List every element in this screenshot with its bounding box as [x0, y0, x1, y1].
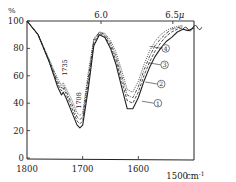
- y-tick-label: 80: [13, 43, 24, 53]
- series-line-①: [27, 21, 194, 128]
- series-label-①: 1: [156, 100, 160, 107]
- x-tick-label: 1800: [16, 164, 38, 174]
- y-tick-label: 20: [13, 126, 24, 136]
- peak-label-1735: 1735: [61, 59, 69, 76]
- plot-frame: [27, 21, 194, 160]
- y-tick-label: 100: [8, 16, 24, 26]
- y-tick-label: 40: [13, 98, 24, 108]
- top-axis-label-6-0: 6.0: [94, 10, 108, 20]
- y-tick-label: 60: [13, 71, 24, 81]
- series-label-②: 2: [159, 80, 163, 87]
- x-axis-unit: cm-1: [186, 170, 205, 181]
- x-axis-line: [27, 159, 194, 160]
- series-leader-line: [149, 63, 161, 65]
- series-leader-line: [150, 46, 162, 48]
- axis-ticks: 0204060801001800170016001500: [8, 16, 188, 181]
- y-axis-unit: %: [8, 6, 16, 15]
- chart-canvas: 0204060801001800170016001500 4321 % cm-1…: [0, 0, 236, 182]
- y-tick-label: 0: [19, 153, 24, 163]
- series-leader-line: [142, 101, 154, 103]
- series-lines: [27, 21, 202, 128]
- x-tick-label: 1600: [128, 164, 150, 174]
- x-tick-label: 1700: [72, 164, 94, 174]
- series-label-③: 3: [163, 61, 167, 68]
- series-leader-line: [145, 82, 157, 84]
- peak-label-1708: 1708: [75, 92, 83, 109]
- x-tick-label: 1500: [166, 171, 188, 181]
- ir-spectrum-chart: 0204060801001800170016001500 4321 % cm-1…: [0, 0, 236, 182]
- series-label-④: 4: [164, 45, 168, 52]
- top-axis-label-6-5: 6.5μ: [165, 10, 185, 20]
